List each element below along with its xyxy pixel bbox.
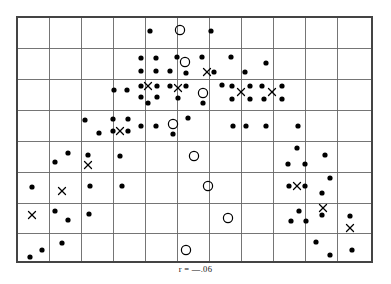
data-point-dot — [263, 60, 268, 65]
data-point-dot — [327, 252, 332, 257]
data-point-open-circle — [180, 57, 189, 66]
data-point-dot — [175, 95, 180, 100]
data-point-dot — [259, 83, 264, 88]
data-point-dot — [153, 55, 158, 60]
data-point-x-mark — [85, 162, 92, 169]
data-point-dot — [261, 96, 266, 101]
data-point-open-circle — [203, 181, 212, 190]
data-point-dot — [327, 175, 332, 180]
data-point-dot — [208, 28, 213, 33]
data-point-x-mark — [117, 128, 124, 135]
data-point-dot — [110, 116, 115, 121]
data-point-dot — [211, 69, 216, 74]
data-point-dot — [228, 54, 233, 59]
plot-frame — [17, 17, 372, 262]
data-point-dot — [295, 123, 300, 128]
data-point-dot — [52, 159, 57, 164]
data-point-dot — [96, 130, 101, 135]
data-point-dot — [27, 254, 32, 259]
data-point-dot — [52, 208, 57, 213]
data-point-dot — [59, 240, 64, 245]
data-point-dot — [145, 100, 150, 105]
data-point-x-mark — [145, 83, 152, 90]
data-points — [27, 25, 354, 259]
data-point-x-mark — [59, 188, 66, 195]
data-point-dot — [110, 128, 115, 133]
data-point-open-circle — [223, 213, 232, 222]
data-point-x-mark — [29, 212, 36, 219]
data-point-dot — [313, 239, 318, 244]
data-point-dot — [138, 94, 143, 99]
data-point-dot — [219, 82, 224, 87]
data-point-dot — [138, 55, 143, 60]
data-point-dot — [125, 116, 130, 121]
data-point-dot — [119, 183, 124, 188]
data-point-dot — [199, 54, 204, 59]
data-point-dot — [154, 83, 159, 88]
data-point-dot — [185, 115, 190, 120]
data-point-dot — [39, 247, 44, 252]
data-point-dot — [167, 83, 172, 88]
data-point-dot — [124, 87, 129, 92]
data-point-open-circle — [189, 151, 198, 160]
data-point-dot — [87, 183, 92, 188]
data-point-dot — [303, 218, 308, 223]
data-point-dot — [138, 123, 143, 128]
scatterplot-canvas — [0, 0, 391, 284]
data-point-dot — [347, 213, 352, 218]
data-point-dot — [183, 83, 188, 88]
data-point-dot — [138, 83, 143, 88]
data-point-x-mark — [347, 225, 354, 232]
data-point-dot — [117, 153, 122, 158]
data-point-dot — [229, 83, 234, 88]
data-point-x-mark — [320, 205, 327, 212]
data-point-dot — [322, 152, 327, 157]
data-point-dot — [200, 100, 205, 105]
data-point-dot — [170, 131, 175, 136]
data-point-dot — [153, 123, 158, 128]
data-point-dot — [153, 68, 158, 73]
data-point-dot — [285, 161, 290, 166]
data-point-dot — [65, 217, 70, 222]
plot-border — [17, 17, 372, 262]
data-point-dot — [279, 83, 284, 88]
data-point-dot — [263, 123, 268, 128]
data-point-dot — [243, 123, 248, 128]
data-point-dot — [138, 68, 143, 73]
data-point-dot — [230, 123, 235, 128]
data-point-x-mark — [269, 89, 276, 96]
data-point-dot — [154, 94, 159, 99]
data-point-dot — [82, 117, 87, 122]
data-point-dot — [247, 96, 252, 101]
data-point-open-circle — [181, 245, 190, 254]
data-point-dot — [183, 70, 188, 75]
data-point-dot — [288, 218, 293, 223]
data-point-dot — [279, 96, 284, 101]
data-point-dot — [229, 96, 234, 101]
data-point-dot — [125, 128, 130, 133]
data-point-dot — [111, 87, 116, 92]
data-point-open-circle — [168, 119, 177, 128]
grid-lines — [17, 17, 372, 262]
data-point-dot — [302, 183, 307, 188]
data-point-dot — [302, 161, 307, 166]
scatterplot-figure: r = —.06 — [0, 0, 391, 284]
data-point-x-mark — [294, 183, 301, 190]
data-point-dot — [86, 211, 91, 216]
data-point-dot — [29, 184, 34, 189]
data-point-dot — [319, 212, 324, 217]
data-point-dot — [174, 54, 179, 59]
data-point-dot — [65, 150, 70, 155]
data-point-dot — [242, 69, 247, 74]
correlation-caption: r = —.06 — [0, 264, 391, 274]
data-point-dot — [296, 208, 301, 213]
data-point-dot — [247, 83, 252, 88]
data-point-dot — [147, 28, 152, 33]
data-point-x-mark — [175, 85, 182, 92]
data-point-dot — [167, 68, 172, 73]
data-point-dot — [286, 183, 291, 188]
data-point-open-circle — [198, 88, 207, 97]
data-point-dot — [319, 190, 324, 195]
data-point-dot — [294, 145, 299, 150]
data-point-dot — [85, 152, 90, 157]
